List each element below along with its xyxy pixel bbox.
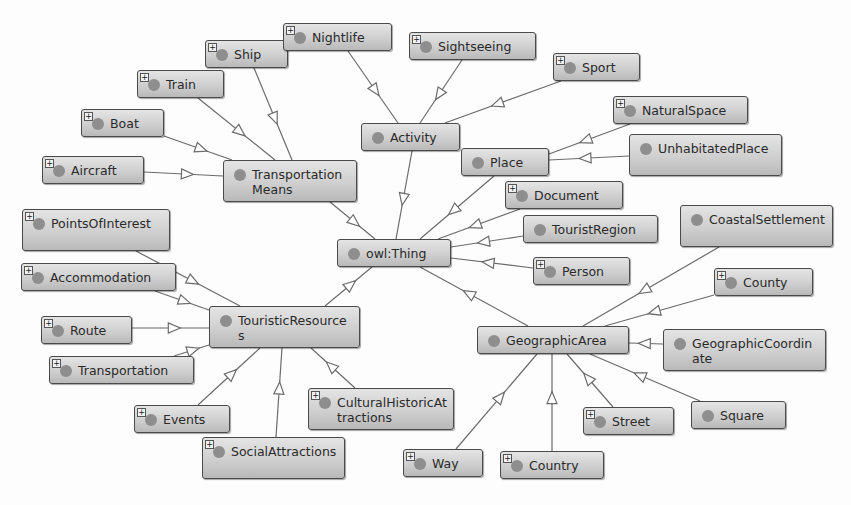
inheritance-arrow-icon [343, 281, 356, 293]
subclass-edge-social-to-touristic [274, 348, 284, 437]
subclass-edge-aircraft-to-transport [144, 169, 223, 179]
expand-icon[interactable]: + [137, 408, 146, 417]
class-node-sport[interactable]: + Sport [553, 53, 640, 81]
class-node-route[interactable]: + Route [41, 316, 132, 344]
class-label: Country [529, 458, 597, 473]
class-node-boat[interactable]: + Boat [81, 109, 164, 137]
class-node-ship[interactable]: + Ship [205, 40, 288, 68]
expand-icon[interactable]: + [406, 452, 415, 461]
class-label: Train [166, 77, 217, 92]
class-icon [488, 335, 500, 347]
subclass-edge-natural-to-place [549, 124, 630, 154]
class-label: Sport [582, 60, 633, 75]
inheritance-arrow-icon [579, 153, 591, 163]
class-node-thing[interactable]: owl:Thing [337, 239, 451, 267]
subclass-edge-accom-to-touristic [155, 291, 209, 310]
class-icon [220, 315, 232, 327]
class-node-geo[interactable]: GeographicArea [477, 326, 629, 354]
class-node-aircraft[interactable]: + Aircraft [42, 156, 144, 184]
subclass-edge-way-to-geo [456, 354, 537, 449]
class-node-coord[interactable]: GeographicCoordinate [663, 329, 826, 371]
class-label: Route [70, 323, 125, 338]
expand-icon[interactable]: + [412, 35, 421, 44]
class-icon [52, 325, 64, 337]
expand-icon[interactable]: + [140, 73, 149, 82]
expand-icon[interactable]: + [586, 410, 595, 419]
subclass-edge-cultural-to-touristic [311, 348, 355, 388]
class-node-nightlife[interactable]: + Nightlife [283, 23, 392, 51]
class-node-events[interactable]: + Events [134, 405, 230, 433]
class-node-country[interactable]: + Country [500, 451, 604, 479]
inheritance-arrow-icon [482, 258, 495, 268]
subclass-edge-coord-to-geo [629, 339, 663, 349]
expand-icon[interactable]: + [84, 112, 93, 121]
class-icon [516, 190, 528, 202]
class-node-coastal[interactable]: CoastalSettlement [680, 205, 833, 247]
class-label: NaturalSpace [642, 103, 741, 118]
expand-icon[interactable]: + [503, 454, 512, 463]
subclass-edge-sightseeing-to-activity [420, 60, 462, 123]
class-node-poi[interactable]: + PointsOfInterest [22, 209, 170, 251]
expand-icon[interactable]: + [556, 56, 565, 65]
class-node-document[interactable]: + Document [505, 181, 623, 209]
subclass-edge-touristic-to-thing [325, 267, 372, 306]
expand-icon[interactable]: + [45, 159, 54, 168]
class-node-street[interactable]: + Street [583, 407, 674, 435]
subclass-edge-region-to-thing [451, 236, 523, 247]
class-node-county[interactable]: + County [714, 268, 813, 296]
class-icon [691, 214, 703, 226]
class-node-activity[interactable]: Activity [361, 123, 460, 151]
class-node-social[interactable]: + SocialAttractions [202, 437, 345, 479]
expand-icon[interactable]: + [208, 43, 217, 52]
class-node-region[interactable]: TouristRegion [523, 215, 658, 243]
class-label: PointsOfInterest [51, 216, 163, 231]
expand-icon[interactable]: + [508, 184, 517, 193]
inheritance-arrow-icon [638, 339, 650, 349]
class-node-square[interactable]: Square [691, 401, 786, 429]
expand-icon[interactable]: + [205, 440, 214, 449]
subclass-edge-person-to-thing [451, 258, 533, 268]
class-label: County [743, 275, 806, 290]
expand-icon[interactable]: + [616, 99, 625, 108]
class-node-natural[interactable]: + NaturalSpace [613, 96, 748, 124]
expand-icon[interactable]: + [286, 26, 295, 35]
subclass-edge-boat-to-transport [164, 136, 232, 160]
class-label: TouristicResources [238, 313, 353, 343]
subclass-edge-place-to-thing [420, 176, 494, 239]
class-label: SocialAttractions [231, 444, 338, 459]
class-node-sightseeing[interactable]: + Sightseeing [409, 32, 536, 60]
class-label: CulturalHistoricAttractions [337, 395, 447, 425]
inheritance-arrow-icon [181, 169, 193, 179]
subclass-edge-geo-to-thing [420, 267, 528, 326]
inheritance-arrow-icon [580, 134, 593, 143]
inheritance-arrow-icon [268, 111, 277, 124]
expand-icon[interactable]: + [52, 359, 61, 368]
expand-icon[interactable]: + [24, 266, 33, 275]
expand-icon[interactable]: + [536, 260, 545, 269]
class-node-way[interactable]: + Way [403, 449, 483, 477]
class-label: TransportationMeans [252, 167, 350, 197]
class-node-transportation[interactable]: + Transportation [49, 356, 194, 384]
class-node-place[interactable]: Place [461, 148, 549, 176]
inheritance-arrow-icon [469, 219, 482, 228]
expand-icon[interactable]: + [44, 319, 53, 328]
subclass-edge-events-to-touristic [198, 348, 260, 405]
subclass-edge-train-to-transport [198, 98, 275, 160]
class-icon [213, 446, 225, 458]
class-node-transport[interactable]: TransportationMeans [223, 160, 357, 202]
expand-icon[interactable]: + [25, 212, 34, 221]
class-label: Document [534, 188, 616, 203]
class-node-accom[interactable]: + Accommodation [21, 263, 176, 291]
subclass-edge-route-to-touristic [132, 323, 209, 333]
class-node-unhab[interactable]: UnhabitatedPlace [629, 134, 782, 176]
expand-icon[interactable]: + [311, 391, 320, 400]
class-node-touristic[interactable]: TouristicResources [209, 306, 360, 348]
class-icon [216, 49, 228, 61]
class-node-train[interactable]: + Train [137, 70, 224, 98]
class-label: Nightlife [312, 30, 385, 45]
class-node-cultural[interactable]: + CulturalHistoricAttractions [308, 388, 454, 430]
class-node-person[interactable]: + Person [533, 257, 630, 285]
class-label: Events [163, 412, 223, 427]
class-icon [148, 79, 160, 91]
expand-icon[interactable]: + [717, 271, 726, 280]
